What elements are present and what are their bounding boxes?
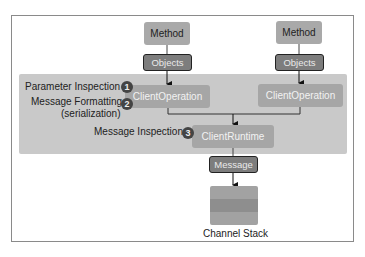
- channel-stack-layer: [210, 212, 258, 225]
- objects-box-right: Objects: [275, 54, 324, 71]
- channel-stack-layer: [210, 186, 258, 199]
- step-2-badge: 2: [121, 98, 133, 110]
- message-box: Message: [209, 156, 258, 173]
- step-1-label: Parameter Inspection: [25, 81, 120, 92]
- step-2-sublabel: (serialization): [61, 108, 120, 119]
- channel-stack-label: Channel Stack: [203, 228, 268, 239]
- client-operation-box-left: ClientOperation: [125, 85, 210, 108]
- step-3-label: Message Inspection: [94, 126, 183, 137]
- channel-stack: [210, 186, 258, 225]
- step-1-badge: 1: [121, 81, 133, 93]
- connector-ops-merge: [168, 107, 300, 114]
- step-3-badge: 3: [182, 127, 194, 139]
- method-box-left: Method: [144, 22, 190, 45]
- client-operation-box-right: ClientOperation: [258, 84, 343, 107]
- step-2-label: Message Formatting: [31, 96, 122, 107]
- client-runtime-box: ClientRuntime: [192, 125, 274, 148]
- channel-stack-layer: [210, 199, 258, 212]
- method-box-right: Method: [276, 21, 322, 44]
- objects-box-left: Objects: [143, 54, 192, 71]
